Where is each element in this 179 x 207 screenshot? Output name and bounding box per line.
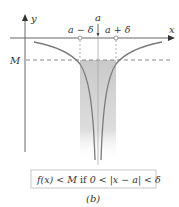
figure-caption: (b): [86, 193, 100, 204]
x-axis-arrow-icon: [168, 35, 175, 41]
condition-if-part: if: [77, 174, 90, 185]
a-minus-delta-point: [78, 36, 82, 40]
a-pointer-arrow-icon: [97, 33, 100, 37]
a-plus-delta-label: a + δ: [105, 24, 131, 35]
a-label: a: [95, 12, 101, 23]
condition-f-part: f(x) < M: [36, 174, 77, 185]
condition-text: f(x) < M if 0 < |x − a| < δ: [36, 174, 161, 186]
condition-range-part: 0 < |x − a| < δ: [90, 174, 161, 186]
limit-diagram: y x a a − δ a + δ M f(x) < M if 0 < |x −…: [0, 0, 179, 207]
a-plus-delta-point: [114, 36, 118, 40]
y-axis-label: y: [30, 13, 37, 24]
a-minus-delta-label: a − δ: [68, 24, 94, 35]
y-axis-arrow-icon: [22, 14, 28, 21]
x-axis-label: x: [169, 24, 175, 35]
m-label: M: [9, 55, 21, 66]
